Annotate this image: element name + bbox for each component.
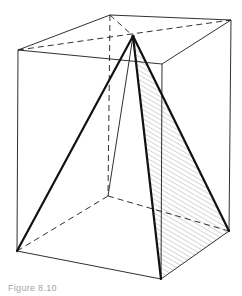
box-top-face: [18, 15, 231, 64]
top-face-diagonals: [18, 15, 231, 50]
figure-caption: Figure 8.10: [8, 283, 57, 293]
hidden-vertical-edge: [108, 15, 110, 196]
pyramid-in-box-diagram: [0, 0, 242, 296]
apex-point: [131, 34, 134, 37]
